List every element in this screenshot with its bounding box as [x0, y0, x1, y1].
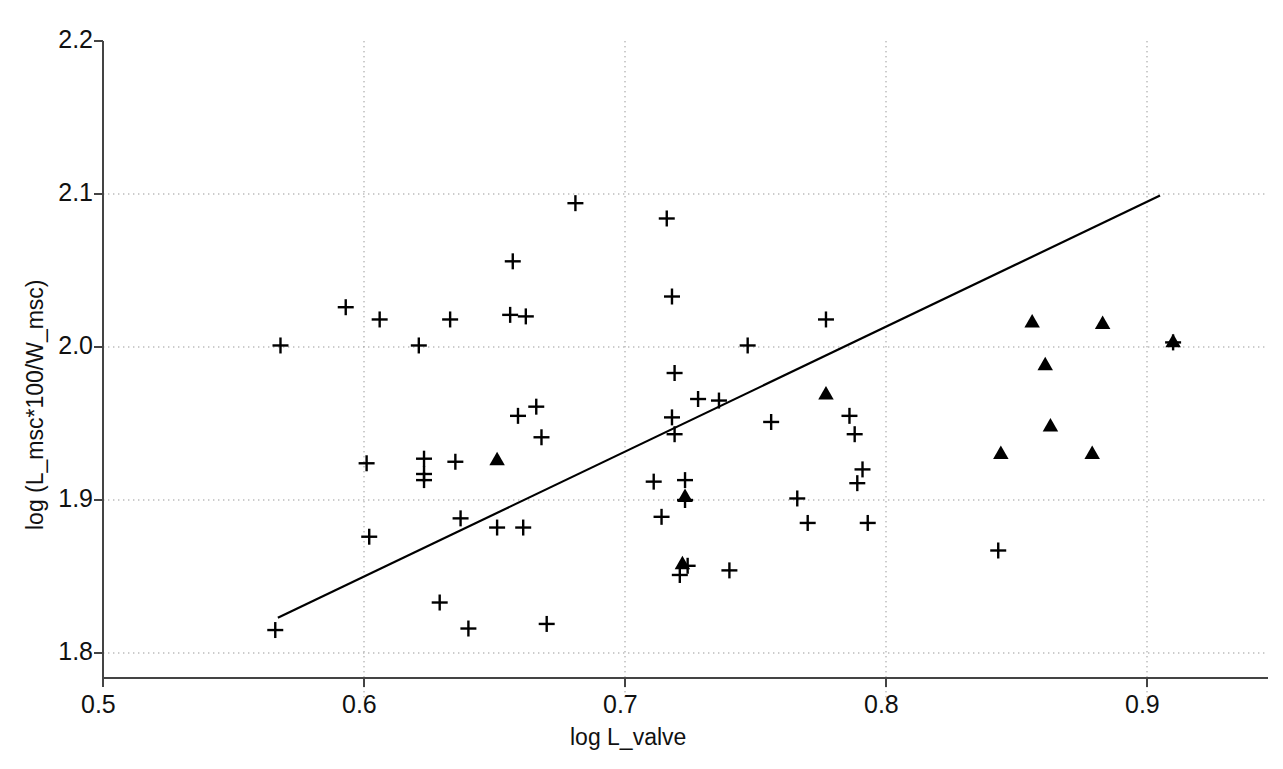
plus-marker [667, 365, 683, 381]
plus-marker [515, 520, 531, 536]
x-tick-label: 0.7 [603, 690, 638, 719]
y-tick-label: 2.0 [47, 331, 93, 360]
gridlines [103, 41, 1268, 700]
plus-marker [372, 311, 388, 327]
plus-marker [539, 616, 555, 632]
y-tick-label: 1.9 [47, 484, 93, 513]
plus-marker [667, 426, 683, 442]
plus-marker [818, 311, 834, 327]
x-tick-label: 0.5 [81, 690, 116, 719]
plus-marker [841, 408, 857, 424]
triangle-marker [818, 386, 833, 400]
plus-marker [789, 490, 805, 506]
plus-marker [518, 308, 534, 324]
axis-lines [94, 41, 1268, 687]
y-tick-label: 1.8 [47, 637, 93, 666]
plus-marker [453, 510, 469, 526]
triangle-marker [1024, 314, 1039, 328]
plus-marker [677, 472, 693, 488]
plus-marker [800, 515, 816, 531]
plus-marker [567, 195, 583, 211]
plus-marker [528, 399, 544, 415]
plus-marker [447, 454, 463, 470]
plus-marker [510, 408, 526, 424]
x-tick-label: 0.6 [342, 690, 377, 719]
data-points [267, 195, 1181, 638]
plus-marker [338, 299, 354, 315]
plus-marker [659, 210, 675, 226]
x-tick-label: 0.9 [1125, 690, 1160, 719]
plus-marker [646, 474, 662, 490]
plus-marker [690, 391, 706, 407]
plus-marker [664, 289, 680, 305]
plus-marker [442, 311, 458, 327]
y-axis-title: log (L_msc*100/W_msc) [22, 279, 49, 530]
plus-marker [849, 475, 865, 491]
plus-marker [763, 414, 779, 430]
plus-marker [411, 337, 427, 353]
triangle-marker [1165, 334, 1180, 348]
plus-marker [654, 509, 670, 525]
y-tick-label: 2.2 [47, 25, 93, 54]
triangle-marker [489, 452, 504, 466]
plot-canvas [0, 0, 1283, 769]
x-axis-title: log L_valve [570, 724, 686, 751]
triangle-marker [1043, 418, 1058, 432]
triangle-marker [677, 488, 692, 502]
plus-marker [272, 337, 288, 353]
triangle-marker [993, 446, 1008, 460]
plus-marker [533, 429, 549, 445]
plus-marker [711, 393, 727, 409]
plus-marker [740, 337, 756, 353]
plus-marker [990, 542, 1006, 558]
plus-marker [505, 253, 521, 269]
plus-marker [847, 426, 863, 442]
triangle-marker [1037, 357, 1052, 371]
plus-marker [267, 622, 283, 638]
plus-marker [359, 455, 375, 471]
plus-marker [416, 451, 432, 467]
y-tick-label: 2.1 [47, 178, 93, 207]
plus-marker [432, 595, 448, 611]
x-tick-label: 0.8 [864, 690, 899, 719]
plus-marker [502, 307, 518, 323]
scatter-plot-figure: 0.50.60.70.80.91.81.92.02.12.2 log L_val… [0, 0, 1283, 769]
triangle-marker [1084, 446, 1099, 460]
plus-marker [855, 461, 871, 477]
plus-marker [860, 515, 876, 531]
plus-marker [672, 567, 688, 583]
triangle-marker [1095, 316, 1110, 330]
plus-marker [489, 520, 505, 536]
plus-marker [664, 409, 680, 425]
plus-marker [460, 621, 476, 637]
plus-marker [721, 562, 737, 578]
